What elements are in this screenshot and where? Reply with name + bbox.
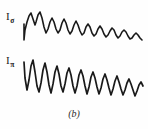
waveform-svg xyxy=(0,0,148,108)
figure-container: Iσ Iπ (b) xyxy=(0,0,148,129)
trace-i-sigma xyxy=(24,12,142,40)
label-pi-subscript: π xyxy=(10,60,15,69)
label-sigma-subscript: σ xyxy=(10,16,15,25)
trace-label-i-pi: Iπ xyxy=(6,55,15,68)
figure-caption: (b) xyxy=(0,108,148,119)
trace-label-i-sigma: Iσ xyxy=(6,11,15,24)
waveform-plot-area xyxy=(0,0,148,108)
trace-i-pi xyxy=(24,60,143,96)
